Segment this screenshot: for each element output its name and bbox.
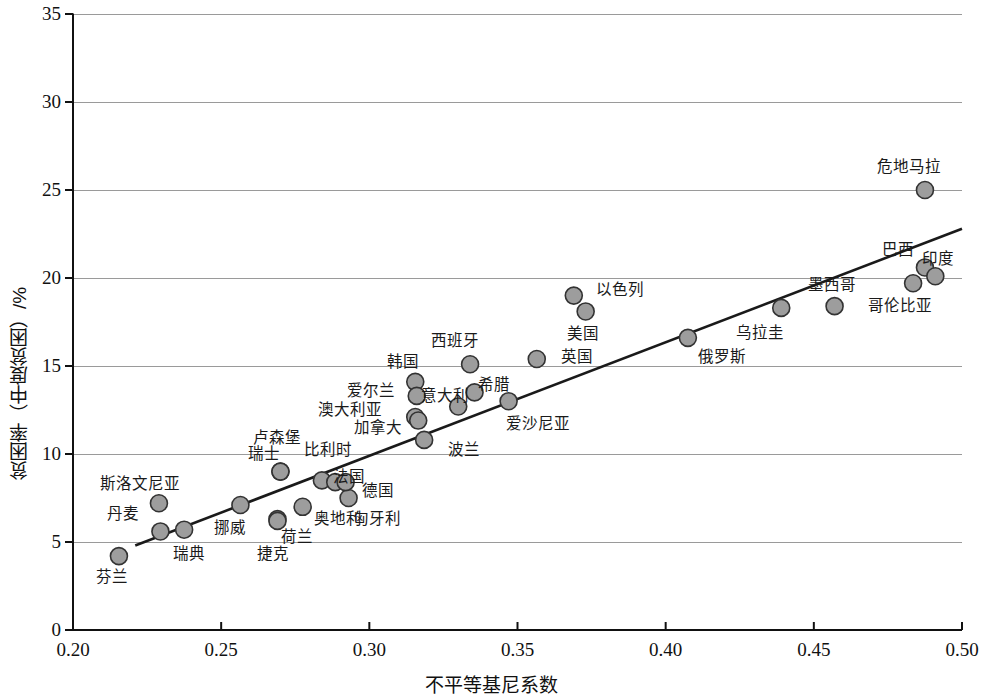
- y-tick-label: 30: [42, 91, 61, 113]
- point-label: 印度: [922, 251, 954, 267]
- x-tick-label: 0.40: [649, 639, 682, 661]
- data-point[interactable]: [826, 298, 843, 315]
- data-point[interactable]: [500, 393, 517, 410]
- point-label: 哥伦比亚: [868, 298, 932, 314]
- point-label: 乌拉圭: [736, 325, 784, 341]
- y-tick-label: 0: [52, 619, 62, 641]
- y-tick-label: 20: [42, 267, 61, 289]
- data-point[interactable]: [927, 268, 944, 285]
- point-label: 瑞士: [248, 446, 280, 462]
- point-label: 危地马拉: [877, 159, 941, 175]
- x-tick-label: 0.45: [797, 639, 830, 661]
- x-tick-label: 0.20: [56, 639, 89, 661]
- data-point[interactable]: [679, 329, 696, 346]
- data-point[interactable]: [340, 490, 357, 507]
- point-label: 爱尔兰: [347, 383, 395, 399]
- data-point[interactable]: [462, 356, 479, 373]
- point-label: 波兰: [448, 442, 480, 458]
- point-label: 丹麦: [107, 506, 139, 522]
- data-point[interactable]: [410, 412, 427, 429]
- y-tick-label: 15: [42, 355, 61, 377]
- point-label: 挪威: [214, 520, 246, 536]
- data-point[interactable]: [773, 299, 790, 316]
- x-tick-label: 0.25: [205, 639, 238, 661]
- point-label: 荷兰: [281, 529, 313, 545]
- point-label: 希腊: [478, 377, 510, 393]
- point-label: 西班牙: [431, 333, 479, 349]
- y-axis-title: 贫困率（中度贫困）/%: [6, 150, 33, 480]
- point-label: 英国: [561, 349, 593, 365]
- point-label: 卢森堡: [253, 430, 301, 446]
- data-point[interactable]: [416, 431, 433, 448]
- point-label: 墨西哥: [808, 277, 856, 293]
- data-point[interactable]: [916, 182, 933, 199]
- x-tick-label: 0.35: [501, 639, 534, 661]
- point-label: 以色列: [596, 282, 644, 298]
- y-tick-label: 35: [42, 3, 61, 25]
- point-label: 斯洛文尼亚: [100, 476, 180, 492]
- data-point[interactable]: [905, 275, 922, 292]
- data-point[interactable]: [152, 523, 169, 540]
- data-point[interactable]: [176, 521, 193, 538]
- point-label: 美国: [567, 326, 599, 342]
- data-point[interactable]: [565, 287, 582, 304]
- x-tick-label: 0.30: [353, 639, 386, 661]
- point-label: 爱沙尼亚: [506, 416, 570, 432]
- point-label: 德国: [362, 483, 394, 499]
- axis-spines: [73, 14, 962, 630]
- point-label: 韩国: [387, 354, 419, 370]
- point-label: 比利时: [304, 442, 352, 458]
- data-point[interactable]: [294, 498, 311, 515]
- point-label: 加拿大: [354, 420, 402, 436]
- point-label: 匈牙利: [353, 511, 401, 527]
- data-point[interactable]: [577, 303, 594, 320]
- point-label: 澳大利亚: [318, 402, 382, 418]
- data-point[interactable]: [110, 548, 127, 565]
- y-tick-label: 25: [42, 179, 61, 201]
- y-tick-label: 10: [42, 443, 61, 465]
- data-point[interactable]: [272, 463, 289, 480]
- point-label: 俄罗斯: [698, 349, 746, 365]
- x-axis-title: 不平等基尼系数: [425, 670, 558, 697]
- data-point[interactable]: [528, 350, 545, 367]
- point-label: 瑞典: [173, 546, 205, 562]
- point-label: 巴西: [882, 242, 914, 258]
- data-point[interactable]: [232, 497, 249, 514]
- x-tick-label: 0.50: [945, 639, 978, 661]
- point-label: 捷克: [257, 546, 289, 562]
- point-label: 意大利: [421, 388, 469, 404]
- point-label: 芬兰: [96, 569, 128, 585]
- y-tick-label: 5: [52, 531, 62, 553]
- data-point[interactable]: [150, 495, 167, 512]
- point-label: 法国: [333, 469, 365, 485]
